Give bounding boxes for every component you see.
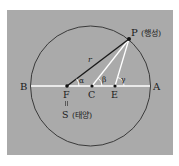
point-f bbox=[65, 84, 69, 88]
label-c: C bbox=[88, 89, 95, 100]
label-s: S bbox=[62, 109, 69, 120]
equivalence-mark bbox=[66, 101, 68, 106]
label-alpha: α bbox=[79, 76, 84, 85]
point-c bbox=[90, 84, 93, 87]
label-r: r bbox=[88, 55, 93, 64]
orbit-diagram: P (행성) r α β γ B A F C E S (태양) bbox=[0, 0, 179, 166]
label-p-note: (행성) bbox=[141, 28, 161, 38]
label-f: F bbox=[63, 89, 70, 100]
label-b: B bbox=[20, 81, 27, 92]
label-s-note: (태양) bbox=[72, 111, 92, 120]
label-beta: β bbox=[102, 75, 106, 84]
label-gamma: γ bbox=[121, 75, 126, 84]
point-e bbox=[113, 84, 116, 87]
label-e: E bbox=[111, 89, 118, 100]
label-a: A bbox=[152, 81, 161, 92]
label-p: P bbox=[131, 27, 138, 38]
